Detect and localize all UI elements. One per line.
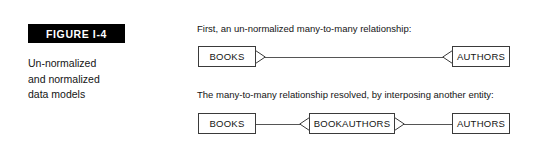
figure-caption-line-1: Un-normalized xyxy=(28,56,173,72)
entity-books: BOOKS xyxy=(198,46,256,67)
crowsfoot-right-icon xyxy=(394,116,405,132)
entity-bookauthors-label: BOOKAUTHORS xyxy=(314,118,391,129)
unnormalized-diagram-note: First, an un-normalized many-to-many rel… xyxy=(197,23,411,35)
relationship-line-left xyxy=(255,124,301,125)
normalized-er-diagram: BOOKS BOOKAUTHORS AUTHORS xyxy=(185,110,541,140)
entity-books: BOOKS xyxy=(198,113,256,134)
entity-books-label: BOOKS xyxy=(209,118,244,129)
entity-authors-label: AUTHORS xyxy=(457,118,505,129)
diagram-column: First, an un-normalized many-to-many rel… xyxy=(185,0,541,163)
crowsfoot-left-icon xyxy=(299,116,310,132)
relationship-line-right xyxy=(404,124,452,125)
unnormalized-er-diagram: BOOKS AUTHORS xyxy=(185,43,541,73)
entity-bookauthors: BOOKAUTHORS xyxy=(309,113,395,134)
crowsfoot-right-icon xyxy=(255,49,266,65)
figure-caption-column: FIGURE I-4 Un-normalized and normalized … xyxy=(0,0,185,163)
entity-books-label: BOOKS xyxy=(209,51,244,62)
entity-authors: AUTHORS xyxy=(452,46,510,67)
figure-number-label: FIGURE I-4 xyxy=(46,28,107,40)
crowsfoot-left-icon xyxy=(442,49,453,65)
entity-authors-label: AUTHORS xyxy=(457,51,505,62)
figure-caption-line-2: and normalized xyxy=(28,72,173,88)
figure-number-badge: FIGURE I-4 xyxy=(28,24,125,43)
normalized-diagram-note: The many-to-many relationship resolved, … xyxy=(197,89,494,101)
entity-authors: AUTHORS xyxy=(452,113,510,134)
relationship-line xyxy=(265,57,443,58)
figure-caption-text: Un-normalized and normalized data models xyxy=(28,56,173,103)
figure-caption-line-3: data models xyxy=(28,87,173,103)
